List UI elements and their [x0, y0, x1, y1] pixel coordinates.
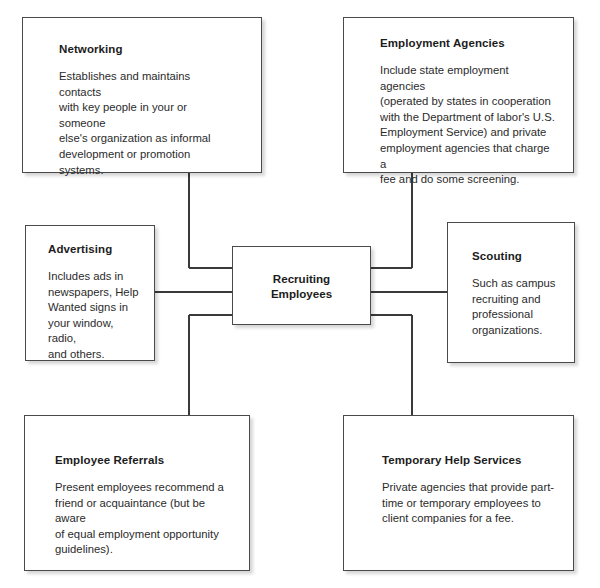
node-employment-agencies-body: Include state employment agencies (opera…: [380, 63, 555, 188]
node-scouting-body: Such as campus recruiting and profession…: [472, 276, 564, 338]
node-center-recruiting-employees[interactable]: Recruiting Employees: [232, 246, 371, 325]
node-employee-referrals-title: Employee Referrals: [55, 453, 233, 467]
node-employment-agencies[interactable]: Employment Agencies Include state employ…: [343, 17, 574, 173]
node-scouting-content: Scouting Such as campus recruiting and p…: [448, 249, 574, 338]
node-employee-referrals-body: Present employees recommend a friend or …: [55, 480, 233, 558]
node-temporary-help-services-body: Private agencies that provide part- time…: [382, 480, 555, 527]
node-scouting-title: Scouting: [472, 249, 564, 263]
node-temporary-help-services[interactable]: Temporary Help Services Private agencies…: [343, 415, 574, 571]
node-networking-body: Establishes and maintains contacts with …: [59, 69, 233, 178]
node-temporary-help-services-title: Temporary Help Services: [382, 453, 555, 467]
node-advertising-body: Includes ads in newspapers, Help Wanted …: [48, 269, 142, 363]
node-employee-referrals[interactable]: Employee Referrals Present employees rec…: [24, 415, 250, 571]
node-employee-referrals-content: Employee Referrals Present employees rec…: [25, 453, 249, 558]
node-advertising[interactable]: Advertising Includes ads in newspapers, …: [25, 225, 155, 361]
node-networking-title: Networking: [59, 42, 233, 56]
node-networking[interactable]: Networking Establishes and maintains con…: [22, 17, 262, 173]
node-scouting[interactable]: Scouting Such as campus recruiting and p…: [447, 222, 575, 363]
node-advertising-content: Advertising Includes ads in newspapers, …: [26, 242, 154, 363]
node-networking-content: Networking Establishes and maintains con…: [23, 42, 261, 178]
recruiting-employees-diagram: Networking Establishes and maintains con…: [0, 0, 600, 588]
node-temporary-help-services-content: Temporary Help Services Private agencies…: [344, 453, 573, 527]
node-center-label: Recruiting Employees: [271, 271, 332, 301]
node-advertising-title: Advertising: [48, 242, 142, 256]
node-employment-agencies-content: Employment Agencies Include state employ…: [344, 36, 573, 188]
node-employment-agencies-title: Employment Agencies: [380, 36, 555, 50]
